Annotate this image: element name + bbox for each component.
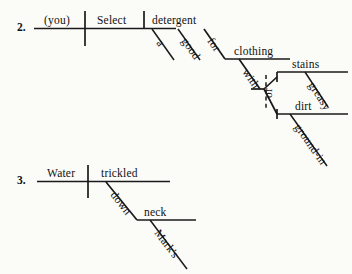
word-compound-stains: stains <box>292 58 320 70</box>
word-preposition-for: for <box>205 35 223 53</box>
word-modifier-ground-in: ground-in <box>292 121 330 167</box>
diagram-3-number: 3. <box>17 174 26 186</box>
word-subject-water: Water <box>47 167 75 179</box>
word-verb-select: Select <box>97 14 127 26</box>
diagram-2-number: 2. <box>17 21 26 33</box>
word-object-detergent: detergent <box>152 14 197 27</box>
word-verb-trickled: trickled <box>101 167 138 179</box>
diagram-2: 2. (you) Select detergent a good for <box>17 11 348 167</box>
diagram-canvas: 2. (you) Select detergent a good for <box>0 0 352 274</box>
word-prep-object-neck: neck <box>144 206 167 218</box>
word-possessive-marks: Mark's <box>152 227 181 261</box>
word-subject-you: (you) <box>44 14 70 27</box>
sentence-diagram-page: 2. (you) Select detergent a good for <box>0 0 352 274</box>
diagram-3: 3. Water trickled down neck Mark's <box>17 165 196 269</box>
word-compound-dirt: dirt <box>295 100 312 112</box>
word-prep-object-clothing: clothing <box>234 45 273 58</box>
word-conjunction-or: or <box>262 88 274 98</box>
